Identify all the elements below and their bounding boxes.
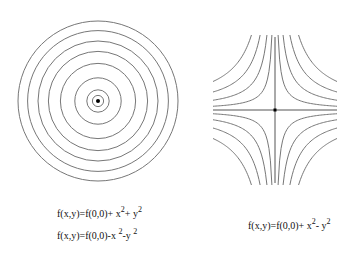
formula-negative-squares: f(x,y)=f(0,0)-x 2-y 2 <box>57 228 137 241</box>
figure-canvas <box>0 0 352 255</box>
hyperbola-upper-left-1 <box>213 35 272 106</box>
formula-saddle: f(x,y)=f(0,0)+ x2- y2 <box>248 218 331 231</box>
hyperbola-upper-left-4 <box>213 35 251 82</box>
formula-2-base: f(x,y)=f(0,0)-x <box>57 230 118 241</box>
formula-2-exp-2: 2 <box>133 227 137 236</box>
formula-1-base: f(x,y)=f(0,0)+ x <box>57 208 121 219</box>
formula-sum-of-squares: f(x,y)=f(0,0)+ x2+ y2 <box>57 206 142 219</box>
formula-1-exp-2: 2 <box>138 205 142 214</box>
hyperbola-upper-right-2 <box>283 35 337 100</box>
extremum-point <box>96 99 100 103</box>
circular-contour-plot <box>18 21 178 181</box>
hyperbola-upper-right-4 <box>299 35 337 82</box>
formula-3-mid: - y <box>316 220 327 231</box>
hyperbola-lower-left-1 <box>213 114 272 185</box>
hyperbola-lower-right-1 <box>278 114 337 185</box>
hyperbola-lower-right-2 <box>283 120 337 185</box>
hyperbola-lower-left-2 <box>213 120 267 185</box>
saddle-point <box>274 109 277 112</box>
formula-3-base: f(x,y)=f(0,0)+ x <box>248 220 312 231</box>
formula-1-mid: + y <box>125 208 138 219</box>
hyperbola-upper-right-1 <box>278 35 337 106</box>
hyperbola-lower-left-4 <box>213 139 251 186</box>
formula-3-exp-2: 2 <box>327 217 331 226</box>
hyperbola-upper-left-2 <box>213 35 267 100</box>
formula-2-mid: -y <box>122 230 133 241</box>
saddle-contour-plot <box>213 35 337 185</box>
hyperbola-lower-right-4 <box>299 139 337 186</box>
